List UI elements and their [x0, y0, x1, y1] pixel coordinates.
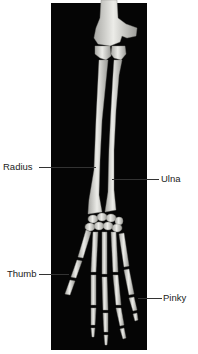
radius-bone	[88, 60, 108, 214]
pinky-finger-bones	[119, 233, 138, 321]
label-thumb: Thumb	[7, 269, 37, 279]
label-pinky: Pinky	[163, 293, 186, 303]
carpal-bones	[85, 213, 123, 232]
index-finger-bones	[91, 232, 98, 337]
ulna-bone	[105, 60, 122, 212]
leader-line-pinky	[138, 298, 162, 299]
leader-line-thumb	[39, 274, 69, 275]
middle-finger-bones	[102, 232, 108, 345]
label-radius: Radius	[3, 162, 33, 172]
leader-line-radius	[39, 167, 96, 168]
elbow-joint	[95, 46, 111, 60]
humerus-bone	[94, 0, 137, 46]
label-ulna: Ulna	[161, 174, 181, 184]
elbow-joint-ulna-head	[111, 46, 126, 60]
leader-line-ulna	[112, 179, 159, 180]
thumb-bones	[65, 230, 91, 295]
